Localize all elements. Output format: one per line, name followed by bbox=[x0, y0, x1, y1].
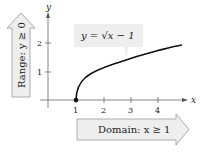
x-tick-3: 3 bbox=[128, 106, 133, 115]
domain-label: Domain: x ≥ 1 bbox=[98, 124, 170, 135]
range-arrow: Range: y ≥ 0 bbox=[7, 13, 35, 97]
start-point bbox=[74, 98, 79, 103]
x-tick-4: 4 bbox=[155, 106, 160, 115]
x-tick-2: 2 bbox=[101, 106, 106, 115]
range-label: Range: y ≥ 0 bbox=[16, 22, 27, 88]
function-curve-tail bbox=[76, 45, 182, 100]
equation-label: y = √x − 1 bbox=[74, 24, 143, 58]
domain-arrow: Domain: x ≥ 1 bbox=[77, 114, 189, 145]
y-tick-2: 2 bbox=[37, 39, 42, 48]
y-tick-1: 1 bbox=[37, 68, 42, 77]
y-axis-arrowhead bbox=[46, 12, 50, 18]
y-axis-label: y bbox=[45, 2, 52, 12]
x-axis-label: x bbox=[191, 95, 196, 105]
x-tick-1: 1 bbox=[73, 106, 78, 115]
x-axis-arrowhead bbox=[182, 98, 188, 102]
function-graph: Range: y ≥ 0 x y 1 2 3 4 1 2 y = √x − 1 … bbox=[0, 0, 203, 156]
equation-text: y = √x − 1 bbox=[80, 30, 135, 41]
